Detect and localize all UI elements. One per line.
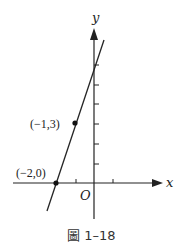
- point-label-neg2-0: (−2,0): [16, 166, 46, 180]
- y-axis-arrow-icon: [90, 28, 98, 40]
- x-axis-arrow-icon: [152, 179, 163, 187]
- caption-prefix: 圖: [67, 225, 80, 244]
- coordinate-diagram: y x O (−1,3) (−2,0): [0, 0, 183, 251]
- point-neg2-0: [53, 180, 58, 185]
- caption-number: 1–18: [84, 228, 115, 243]
- x-axis: [13, 179, 163, 187]
- y-axis-label: y: [91, 10, 100, 25]
- y-axis: [90, 28, 99, 219]
- figure-caption: 圖1–18: [0, 225, 183, 244]
- point-label-neg1-3: (−1,3): [30, 117, 60, 131]
- point-neg1-3: [72, 120, 77, 125]
- origin-label: O: [80, 188, 91, 203]
- x-axis-label: x: [166, 175, 174, 190]
